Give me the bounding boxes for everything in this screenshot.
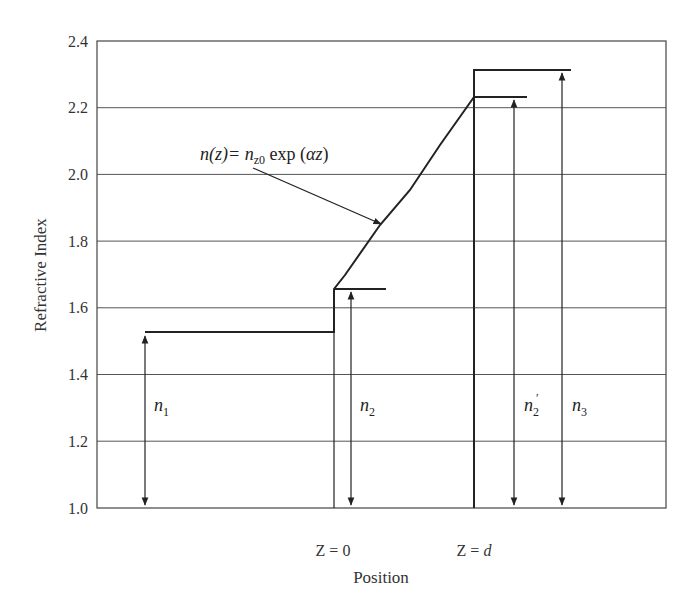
formula-annotation: n(z)= nz0 exp (αz) <box>200 144 328 167</box>
y-tick: 1.4 <box>68 366 88 383</box>
y-axis-label: Refractive Index <box>31 218 50 332</box>
y-tick: 1.0 <box>68 500 88 517</box>
y-axis-ticks: 2.4 2.2 2.0 1.8 1.6 1.4 1.2 1.0 <box>68 33 88 517</box>
formula-pointer-arrow <box>253 168 381 224</box>
gridlines <box>97 108 666 442</box>
y-tick: 1.8 <box>68 233 88 250</box>
y-tick: 2.4 <box>68 33 88 50</box>
x-axis-label: Position <box>353 568 409 587</box>
refractive-index-diagram: 2.4 2.2 2.0 1.8 1.6 1.4 1.2 1.0 Refracti… <box>0 0 695 591</box>
y-tick: 2.2 <box>68 99 88 116</box>
y-tick: 1.6 <box>68 299 88 316</box>
y-tick: 2.0 <box>68 166 88 183</box>
label-n2: n2 <box>360 395 375 419</box>
x-tick-z0: Z = 0 <box>316 542 351 559</box>
label-n2-prime: n2′ <box>524 391 539 419</box>
x-tick-zd: Z = d <box>457 542 493 559</box>
index-profile <box>145 70 571 508</box>
plot-frame <box>97 41 666 508</box>
label-n1: n1 <box>154 395 169 419</box>
y-tick: 1.2 <box>68 433 88 450</box>
label-n3: n3 <box>572 395 587 419</box>
